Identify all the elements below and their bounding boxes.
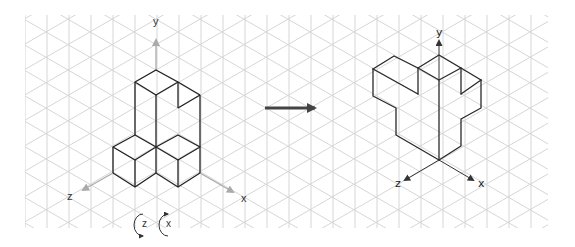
left-axes <box>83 40 233 192</box>
left-x-label: x <box>241 193 247 204</box>
isometric-diagram: y z x z x y z x <box>0 0 575 247</box>
left-y-label: y <box>153 16 159 27</box>
right-x-axis <box>439 160 473 180</box>
isometric-grid <box>0 0 575 247</box>
rotate-z-label: z <box>142 219 147 229</box>
left-z-axis <box>83 173 113 190</box>
right-z-label: z <box>395 178 401 189</box>
diagram-canvas <box>0 0 575 247</box>
left-z-label: z <box>67 191 73 202</box>
right-x-label: x <box>478 178 485 189</box>
right-y-label: y <box>436 27 443 38</box>
left-x-axis <box>200 173 233 192</box>
rotate-x-label: x <box>166 219 171 229</box>
right-z-axis <box>405 160 439 180</box>
